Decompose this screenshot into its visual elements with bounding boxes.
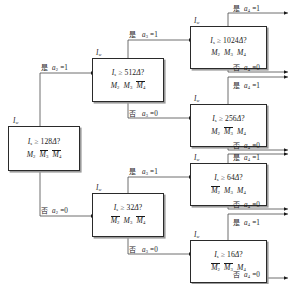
iw-label-n64: Iw: [194, 154, 199, 162]
node-condition-n512: Is ≥ 512Δ?: [112, 69, 145, 78]
edge-label-a2-no: 否 a2 =0: [41, 205, 68, 215]
edge-label-a4-no-16: 否 a4 =0: [233, 269, 260, 279]
decision-tree-diagram: Iw Iw Iw Iw Iw Iw Iw Is ≥ 128Δ? M2 M3 M4…: [0, 0, 295, 284]
no-glyph: 否: [233, 142, 240, 150]
node-condition-n256: Is ≥ 256Δ?: [212, 115, 245, 124]
iw-label-n128: Iw: [13, 117, 18, 125]
node-condition-n64: Is ≥ 64Δ?: [214, 174, 243, 183]
edge-label-a3-yes-top: 是 a3 =1: [129, 29, 158, 39]
edge-label-a4-no-64: 否 a4 =0: [233, 199, 260, 209]
node-masks-n256: M2 M3 M4: [211, 127, 246, 137]
no-glyph: 否: [129, 246, 136, 254]
edge-label-a2-yes: 是 a2 =1: [41, 62, 68, 72]
yes-glyph: 是: [233, 219, 240, 227]
yes-glyph: 是: [129, 168, 136, 176]
iw-label-n32: Iw: [96, 184, 101, 192]
iw-label-n16: Iw: [194, 231, 199, 239]
yes-glyph: 是: [233, 154, 240, 162]
no-glyph: 否: [233, 271, 240, 279]
no-glyph: 否: [41, 207, 48, 215]
iw-label-n1024: Iw: [194, 17, 199, 25]
node-condition-n16: Is ≥ 16Δ?: [214, 251, 243, 260]
edge-label-a4-no-1024: 否 a4 =0: [233, 62, 260, 72]
node-masks-n64: M2 M3 M4: [211, 186, 246, 196]
no-glyph: 否: [233, 201, 240, 209]
node-masks-n128: M2 M3 M4: [27, 150, 62, 160]
no-glyph: 否: [129, 110, 136, 118]
no-glyph: 否: [233, 64, 240, 72]
yes-glyph: 是: [41, 64, 48, 72]
node-masks-n1024: M2 M3 M4: [211, 49, 246, 58]
edge-label-a3-no-top: 否 a3 =0: [129, 108, 158, 118]
edge-label-a4-no-256: 否 a4 =0: [233, 140, 260, 150]
node-box-n128[interactable]: Is ≥ 128Δ? M2 M3 M4: [8, 126, 80, 171]
node-masks-n32: M2 M3 M4: [111, 216, 146, 226]
yes-glyph: 是: [233, 82, 240, 90]
edge-a3-yes-bot: [128, 177, 193, 193]
edge-label-a4-yes-16: 是 a4 =1: [233, 217, 260, 227]
iw-label-n512: Iw: [96, 49, 101, 57]
yes-glyph: 是: [233, 5, 240, 13]
edge-label-a3-no-bot: 否 a3 =0: [129, 244, 158, 254]
edge-a2-yes: [40, 73, 95, 126]
node-condition-n1024: Is ≥ 1024Δ?: [210, 37, 246, 46]
node-condition-n32: Is ≥ 32Δ?: [114, 204, 143, 213]
node-box-n512[interactable]: Is ≥ 512Δ? M2 M3 M4: [92, 58, 164, 102]
edge-label-a4-yes-256: 是 a4 =1: [233, 80, 260, 90]
iw-label-n256: Iw: [194, 95, 199, 103]
edge-a3-yes-top: [128, 40, 193, 58]
edge-label-a3-yes-bot: 是 a3 =1: [129, 166, 158, 176]
yes-glyph: 是: [129, 31, 136, 39]
edge-label-a4-yes-64: 是 a4 =1: [233, 152, 260, 162]
node-box-n32[interactable]: Is ≥ 32Δ? M2 M3 M4: [92, 193, 164, 237]
edge-a4-yes-1024: [228, 13, 288, 26]
node-masks-n512: M2 M3 M4: [111, 81, 146, 91]
edge-label-a4-yes-1024: 是 a4 =1: [233, 3, 260, 13]
node-condition-n128: Is ≥ 128Δ?: [28, 138, 61, 147]
